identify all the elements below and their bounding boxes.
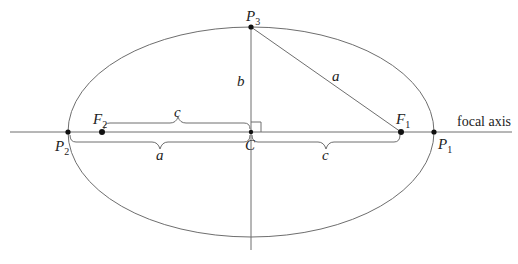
segment-p3-f1	[251, 27, 401, 132]
label-p3: P3	[245, 8, 260, 27]
label-p2: P2	[54, 138, 69, 157]
label-f2: F2	[92, 111, 107, 130]
ellipse-diagram: P3 P2 P1 F2 F1 C b a c a c focal axis	[0, 0, 518, 264]
point-p3	[248, 24, 253, 29]
point-p2	[65, 129, 70, 134]
label-f1: F1	[395, 111, 410, 130]
label-c-top: c	[174, 104, 181, 120]
focal-axis-label: focal axis	[457, 114, 511, 129]
label-a-bottom: a	[156, 147, 164, 163]
point-f1	[398, 129, 404, 135]
point-p1	[431, 129, 436, 134]
label-p1: P1	[437, 136, 452, 155]
point-c	[249, 130, 253, 134]
label-b: b	[237, 73, 245, 89]
label-a-hypotenuse: a	[332, 68, 340, 84]
label-c-bottom: c	[322, 147, 329, 163]
label-c: C	[245, 137, 256, 153]
